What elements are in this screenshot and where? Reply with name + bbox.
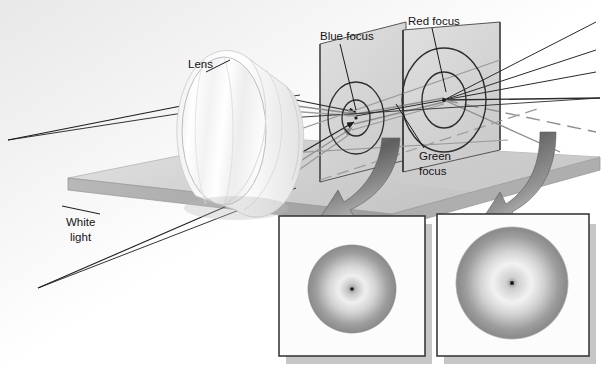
label-white-light-line2: light bbox=[70, 231, 92, 243]
label-lens: Lens bbox=[188, 58, 213, 70]
label-red-focus: Red focus bbox=[408, 15, 460, 27]
label-blue-focus: Blue focus bbox=[320, 30, 374, 42]
red-focus-spot-inset bbox=[437, 214, 596, 364]
label-green-focus-line2: focus bbox=[419, 165, 447, 177]
blue-focus-spot-inset bbox=[279, 216, 432, 364]
chromatic-aberration-figure: Lens Blue focus Red focus Green focus Wh… bbox=[0, 0, 603, 374]
label-white-light-line1: White bbox=[66, 216, 95, 228]
label-green-focus-line1: Green bbox=[419, 150, 451, 162]
